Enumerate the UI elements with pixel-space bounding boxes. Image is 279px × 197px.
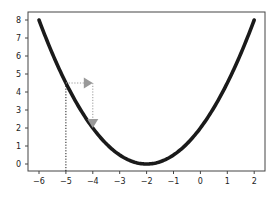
y-tick-label: 1 — [16, 142, 21, 151]
y-tick-label: 6 — [16, 52, 21, 61]
x-tick-label: −4 — [87, 177, 99, 186]
x-tick-label: 1 — [225, 177, 230, 186]
x-tick-label: −6 — [33, 177, 45, 186]
plot-area — [28, 12, 265, 171]
x-tick-label: −3 — [114, 177, 126, 186]
y-tick-label: 0 — [16, 160, 21, 169]
y-tick-label: 8 — [16, 16, 21, 25]
y-tick-label: 3 — [16, 106, 21, 115]
chart: −6−5−4−3−2−1012 012345678 — [0, 0, 279, 197]
y-tick-label: 7 — [16, 34, 21, 43]
x-tick-label: −5 — [60, 177, 72, 186]
x-axis-ticks: −6−5−4−3−2−1012 — [33, 171, 257, 186]
x-tick-label: 0 — [198, 177, 203, 186]
y-axis-ticks: 012345678 — [16, 16, 28, 169]
y-tick-label: 2 — [16, 124, 21, 133]
x-tick-label: 2 — [252, 177, 257, 186]
x-tick-label: −2 — [141, 177, 153, 186]
y-tick-label: 5 — [16, 70, 21, 79]
x-tick-label: −1 — [168, 177, 180, 186]
y-tick-label: 4 — [16, 88, 21, 97]
